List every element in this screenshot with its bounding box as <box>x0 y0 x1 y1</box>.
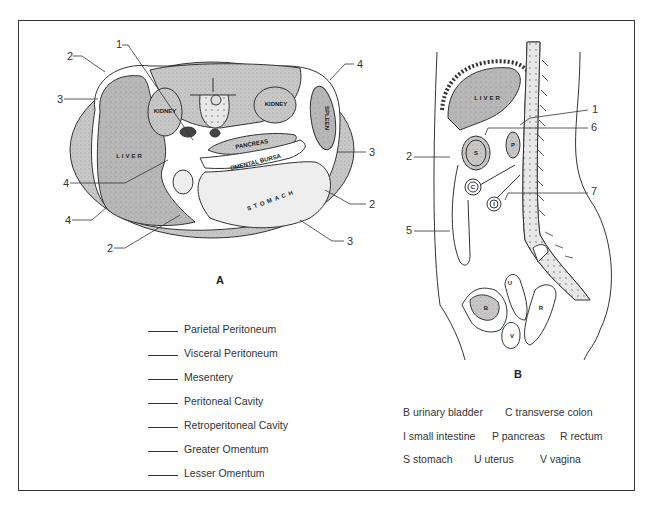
term-label: Retroperitoneal Cavity <box>184 419 288 431</box>
answer-blank[interactable] <box>148 403 178 404</box>
callout-4-a-right: 4 <box>357 58 363 70</box>
key-intestine: I small intestine <box>403 430 475 442</box>
callout-2-b: 2 <box>406 150 412 162</box>
term-label: Lesser Omentum <box>184 467 265 479</box>
callout-lines-b <box>414 110 588 231</box>
term-label: Mesentery <box>184 371 233 383</box>
term-item: Peritoneal Cavity <box>148 383 288 407</box>
key-rectum: R rectum <box>560 430 603 442</box>
stomach-label-b: S <box>474 150 478 156</box>
callout-3-a-left: 3 <box>57 93 63 105</box>
callout-1-a: 1 <box>116 38 122 50</box>
key-bladder: B urinary bladder <box>403 406 483 418</box>
key-colon: C transverse colon <box>505 406 593 418</box>
key-vagina: V vagina <box>540 453 581 465</box>
callout-2-a-bottom: 2 <box>107 242 113 254</box>
term-item: Retroperitoneal Cavity <box>148 407 288 431</box>
liver-label-b: LIVER <box>474 95 502 101</box>
term-label: Greater Omentum <box>184 443 269 455</box>
spleen-label: SPLEEN <box>324 106 330 130</box>
figure-letter-a: A <box>216 274 224 286</box>
key-uterus: U uterus <box>474 453 514 465</box>
term-label: Peritoneal Cavity <box>184 395 263 407</box>
term-label: Parietal Peritoneum <box>184 323 276 335</box>
callout-3-a-right: 3 <box>369 146 375 158</box>
callout-4-a-mid: 4 <box>63 177 69 189</box>
callout-6-b: 6 <box>591 121 597 133</box>
answer-blank[interactable] <box>148 427 178 428</box>
key-stomach: S stomach <box>403 453 453 465</box>
answer-blank[interactable] <box>148 475 178 476</box>
answer-blank[interactable] <box>148 379 178 380</box>
sagittal-diagram <box>434 42 611 360</box>
callout-7-b: 7 <box>591 185 597 197</box>
key-pancreas: P pancreas <box>492 430 545 442</box>
callout-2-a-top: 2 <box>67 50 73 62</box>
anatomy-illustrations: LIVER KIDNEY KIDNEY SPLEEN PANCREAS OMEN… <box>0 0 655 513</box>
bladder-label: B <box>484 305 489 311</box>
callout-1-b: 1 <box>592 103 598 115</box>
term-list: Parietal Peritoneum Visceral Peritoneum … <box>148 311 288 479</box>
rectum-label: R <box>539 305 544 311</box>
term-item: Greater Omentum <box>148 431 288 455</box>
liver-label-a: LIVER <box>116 153 144 159</box>
answer-blank[interactable] <box>148 451 178 452</box>
uterus-label: U <box>508 280 512 286</box>
colon-label: C <box>471 184 476 190</box>
figure-letter-b: B <box>514 368 522 380</box>
term-item: Lesser Omentum <box>148 455 288 479</box>
term-item: Mesentery <box>148 359 288 383</box>
cross-section-diagram <box>70 62 354 238</box>
term-label: Visceral Peritoneum <box>184 347 278 359</box>
term-item: Parietal Peritoneum <box>148 311 288 335</box>
vagina-label: V <box>510 333 514 339</box>
kidney-right-label: KIDNEY <box>265 101 288 107</box>
term-item: Visceral Peritoneum <box>148 335 288 359</box>
callout-5-b: 5 <box>406 224 412 236</box>
callout-3-a-bottom: 3 <box>347 235 353 247</box>
callout-2-a-right: 2 <box>369 198 375 210</box>
answer-blank[interactable] <box>148 355 178 356</box>
answer-blank[interactable] <box>148 331 178 332</box>
callout-4-a-low: 4 <box>65 214 71 226</box>
pancreas-label-b: P <box>511 142 515 148</box>
